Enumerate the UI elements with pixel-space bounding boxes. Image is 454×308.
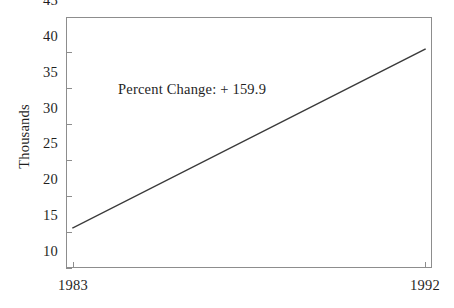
y-axis-tick-label: 40 [24, 29, 58, 44]
y-axis-tick-label: 15 [24, 208, 58, 223]
y-axis-title: Thousands [16, 77, 33, 197]
x-axis-tick-label: 1983 [58, 278, 88, 293]
plot-area [66, 17, 432, 268]
x-axis-tick-label: 1992 [410, 278, 440, 293]
line-chart: 4540353025201510 Thousands 19831992 Perc… [0, 0, 454, 308]
percent-change-annotation: Percent Change: + 159.9 [118, 81, 266, 98]
y-axis-tick-label: 10 [24, 244, 58, 259]
y-axis-tick-label: 45 [24, 0, 58, 8]
